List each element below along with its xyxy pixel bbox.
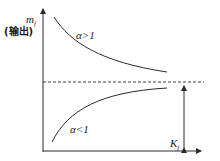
y-axis-note: (输出) [4, 27, 33, 37]
curve-alpha-greater-1 [54, 17, 167, 72]
y-axis-subscript: f [34, 20, 36, 28]
curve-label-alpha-greater-1: α>1 [76, 30, 95, 41]
curve-label-alpha-less-1: α<1 [70, 124, 89, 135]
kf-subscript: f [177, 144, 179, 152]
y-axis-symbol: m [26, 13, 34, 25]
kf-label: Kf [170, 138, 179, 152]
